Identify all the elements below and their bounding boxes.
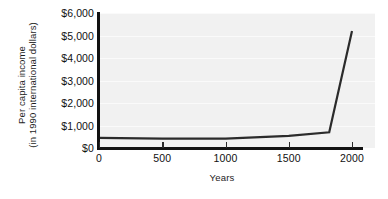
- y-axis-ticklabels: $0$1,000$2,000$3,000$4,000$5,000$6,000: [0, 0, 94, 199]
- x-ticklabel: 2000: [322, 152, 382, 164]
- series-line-per-capita-income: [99, 31, 352, 139]
- x-axis-line: [97, 147, 363, 150]
- x-tick: [99, 142, 100, 148]
- y-axis-line: [97, 12, 100, 149]
- x-tick: [226, 142, 227, 148]
- x-ticklabel: 0: [69, 152, 129, 164]
- series-line-chart: [99, 13, 375, 148]
- y-ticklabel: $6,000: [0, 8, 94, 19]
- y-ticklabel: $3,000: [0, 75, 94, 86]
- y-ticklabel: $5,000: [0, 30, 94, 41]
- x-tick: [162, 142, 163, 148]
- x-ticklabel: 1500: [259, 152, 319, 164]
- x-tick: [289, 142, 290, 148]
- y-ticklabel: $2,000: [0, 98, 94, 109]
- y-ticklabel: $4,000: [0, 53, 94, 64]
- chart-figure: (in 1990 international dollars) Per capi…: [0, 0, 388, 199]
- y-ticklabel: $1,000: [0, 120, 94, 131]
- plot-area: [99, 13, 375, 148]
- x-tick: [352, 142, 353, 148]
- x-ticklabel: 500: [132, 152, 192, 164]
- x-axis-title: Years: [99, 172, 345, 183]
- x-ticklabel: 1000: [196, 152, 256, 164]
